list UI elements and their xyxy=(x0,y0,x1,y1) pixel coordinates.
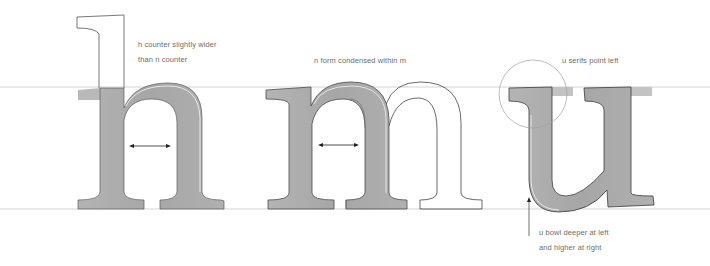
annotation-u-bowl-line1: u bowl deeper at left xyxy=(539,225,609,240)
annotation-h-counter: h counter slightly wider than n counter xyxy=(138,37,217,67)
n-counter-arrow xyxy=(318,143,359,147)
annotation-u-bowl-line2: and higher at right xyxy=(539,240,609,255)
annotation-h-counter-line1: h counter slightly wider xyxy=(138,37,217,52)
u-bowl-pointer-arrow xyxy=(527,197,531,236)
h-top-serif-shadow xyxy=(78,88,101,100)
letter-u xyxy=(509,87,654,212)
u-right-serif-shadow xyxy=(630,87,652,96)
n-counter-outline xyxy=(346,99,365,209)
annotation-h-counter-line2: than n counter xyxy=(138,52,217,67)
letter-m-outline xyxy=(386,82,482,209)
annotation-u-bowl: u bowl deeper at left and higher at righ… xyxy=(539,225,609,255)
annotation-n-form-line1: n form condensed within m xyxy=(314,53,406,68)
annotation-u-serifs: u serifs point left xyxy=(562,53,619,68)
h-counter-arrow xyxy=(129,144,171,148)
letter-n xyxy=(266,82,407,209)
u-left-serif-shadow xyxy=(552,87,573,96)
m-outline xyxy=(386,82,482,209)
annotation-n-form: n form condensed within m xyxy=(314,53,406,68)
annotation-u-serifs-line1: u serifs point left xyxy=(562,53,619,68)
h-ascender-outline xyxy=(77,15,124,88)
letterform-diagram: h counter slightly wider than n counter … xyxy=(0,0,710,266)
